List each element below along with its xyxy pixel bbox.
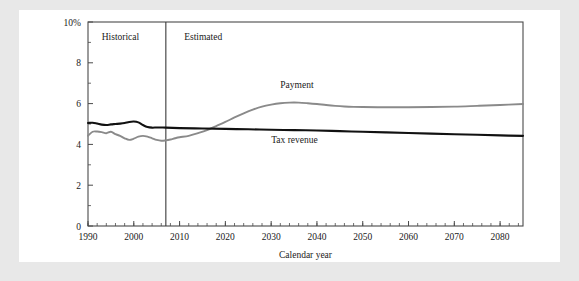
plot-frame <box>88 22 523 226</box>
x-tick-label: 2040 <box>307 232 326 242</box>
y-tick-label: 0 <box>76 222 81 232</box>
chart-container: 1990200020102020203020402050206020702080… <box>0 0 579 281</box>
x-tick-label: 2060 <box>399 232 418 242</box>
x-axis-title: Calendar year <box>279 250 333 260</box>
x-tick-label: 1990 <box>79 232 98 242</box>
chart-svg: 1990200020102020203020402050206020702080… <box>0 0 579 281</box>
x-tick-label: 2050 <box>353 232 372 242</box>
x-tick-label: 2020 <box>216 232 235 242</box>
x-tick-label: 2010 <box>170 232 189 242</box>
y-tick-label: 6 <box>76 99 81 109</box>
x-tick-label: 2070 <box>445 232 464 242</box>
y-tick-label: 8 <box>76 58 81 68</box>
tax-revenue-label: Tax revenue <box>271 135 318 145</box>
y-tick-label: 2 <box>76 181 81 191</box>
y-axis-tick-labels: 0246810% <box>64 18 82 232</box>
x-tick-label: 2000 <box>124 232 143 242</box>
x-axis-major-ticks <box>88 221 500 226</box>
y-tick-label: 10% <box>64 18 82 28</box>
estimated-label: Estimated <box>184 32 222 42</box>
y-tick-label: 4 <box>76 140 81 150</box>
series-line-tax-revenue <box>88 122 523 136</box>
payment-label: Payment <box>280 80 314 90</box>
x-tick-label: 2080 <box>491 232 510 242</box>
historical-label: Historical <box>102 32 140 42</box>
figure-background: 1990200020102020203020402050206020702080… <box>0 0 579 281</box>
x-tick-label: 2030 <box>262 232 281 242</box>
plot-border <box>88 22 523 226</box>
x-axis-tick-labels: 1990200020102020203020402050206020702080 <box>79 232 510 242</box>
